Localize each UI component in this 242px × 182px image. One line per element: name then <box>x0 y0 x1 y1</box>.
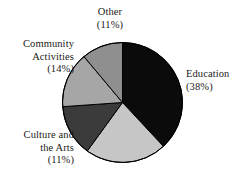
pie-label-community-activities-line1: Community <box>2 38 74 51</box>
pie-label-education-name: Education <box>186 68 242 81</box>
pie-label-other: Other (11%) <box>76 6 144 31</box>
pie-label-other-name: Other <box>76 6 144 19</box>
pie-label-culture-and-the-arts-line2: the Arts <box>0 142 74 155</box>
pie-label-culture-and-the-arts: Culture and the Arts (11%) <box>0 129 74 167</box>
pie-label-culture-and-the-arts-percent: (11%) <box>0 154 74 167</box>
pie-label-education: Education (38%) <box>186 68 242 93</box>
pie-chart-graphic <box>62 42 183 163</box>
pie-label-community-activities-percent: (14%) <box>2 63 74 76</box>
pie-label-community-activities: Community Activities (14%) <box>2 38 74 76</box>
pie-chart-figure: Other (11%) Community Activities (14%) C… <box>0 0 242 182</box>
pie-label-culture-and-the-arts-line1: Culture and <box>0 129 74 142</box>
pie-label-community-activities-line2: Activities <box>2 51 74 64</box>
pie-label-other-percent: (11%) <box>76 19 144 32</box>
pie-label-education-percent: (38%) <box>186 81 242 94</box>
